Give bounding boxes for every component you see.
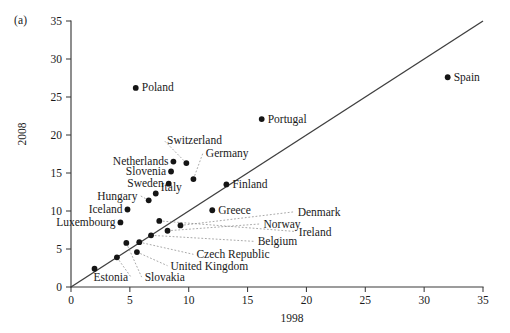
x-tick-label: 20 <box>301 294 313 306</box>
y-tick-label: 15 <box>51 167 63 179</box>
data-point-marker[interactable] <box>153 191 159 197</box>
data-point-label: Luxembourg <box>56 216 115 229</box>
data-point-marker[interactable] <box>445 74 451 80</box>
y-tick-label: 0 <box>56 281 62 293</box>
data-point-marker[interactable] <box>178 223 184 229</box>
data-point-group: Hungary <box>97 190 151 203</box>
data-point-marker[interactable] <box>259 116 265 122</box>
data-point-marker[interactable] <box>183 160 189 166</box>
data-point-group <box>92 266 98 272</box>
data-point-label: Italy <box>161 181 182 194</box>
data-point-label: Switzerland <box>167 134 222 146</box>
data-point-marker[interactable] <box>133 85 139 91</box>
data-point-label: Iceland <box>89 203 123 215</box>
data-point-label: Estonia <box>94 271 129 283</box>
data-point-marker[interactable] <box>134 249 140 255</box>
data-point-marker[interactable] <box>209 207 215 213</box>
data-point-label: Slovakia <box>145 271 185 283</box>
label-leader-line <box>193 153 202 179</box>
data-point-label: Norway <box>264 218 301 231</box>
data-point-label: Belgium <box>258 235 298 248</box>
data-point-label: Finland <box>232 178 267 190</box>
x-tick-label: 30 <box>418 294 430 306</box>
scatter-plot: 051015202530350510152025303519982008Pola… <box>0 0 510 333</box>
data-point-label: Hungary <box>97 190 137 203</box>
data-point-group: Portugal <box>259 113 307 126</box>
data-point-group: Luxembourg <box>56 216 123 229</box>
data-point-group: Ireland <box>156 218 331 238</box>
data-point-marker[interactable] <box>146 197 152 203</box>
data-point-label: Ireland <box>299 226 332 238</box>
data-point-group: Czech Republic <box>136 239 269 261</box>
x-axis-title: 1998 <box>281 312 304 324</box>
data-point-group: Greece <box>209 204 250 216</box>
data-point-marker[interactable] <box>191 176 197 182</box>
y-tick-label: 30 <box>51 53 63 65</box>
x-tick-label: 25 <box>360 294 372 306</box>
data-point-marker[interactable] <box>123 240 129 246</box>
data-point-label: Sweden <box>127 177 164 189</box>
data-point-marker[interactable] <box>156 218 162 224</box>
data-point-label: Spain <box>454 71 480 84</box>
data-point-label: Greece <box>218 204 251 216</box>
data-point-marker[interactable] <box>114 254 120 260</box>
data-point-marker[interactable] <box>125 207 131 213</box>
data-point-label: Portugal <box>268 113 307 126</box>
data-point-marker[interactable] <box>223 182 229 188</box>
data-point-label: Denmark <box>298 206 341 218</box>
x-tick-label: 15 <box>242 294 254 306</box>
data-point-group: Germany <box>191 147 249 182</box>
data-point-group: Poland <box>133 81 174 93</box>
label-leader-line <box>139 242 193 254</box>
data-point-marker[interactable] <box>148 232 154 238</box>
data-point-marker[interactable] <box>136 239 142 245</box>
x-tick-label: 0 <box>68 294 74 306</box>
data-point-marker[interactable] <box>165 228 171 234</box>
x-tick-label: 5 <box>127 294 133 306</box>
data-point-marker[interactable] <box>168 169 174 175</box>
data-point-label: Poland <box>142 81 174 93</box>
x-tick-label: 10 <box>183 294 195 306</box>
y-tick-label: 35 <box>51 15 63 27</box>
data-point-group: Belgium <box>148 232 297 248</box>
data-point-marker[interactable] <box>92 266 98 272</box>
x-tick-label: 35 <box>477 294 489 306</box>
label-leader-line <box>126 243 141 277</box>
data-point-label: Slovenia <box>126 165 166 177</box>
y-tick-label: 5 <box>56 243 62 255</box>
label-leader-line <box>151 235 255 241</box>
y-tick-label: 25 <box>51 91 63 103</box>
data-point-label: Germany <box>206 147 249 160</box>
data-point-group: Iceland <box>89 203 131 215</box>
figure-container: (a) 051015202530350510152025303519982008… <box>0 0 510 333</box>
y-tick-label: 20 <box>51 129 63 141</box>
data-point-group: Spain <box>445 71 480 84</box>
data-point-marker[interactable] <box>171 159 177 165</box>
data-point-marker[interactable] <box>118 220 124 226</box>
y-axis-title: 2008 <box>16 122 28 145</box>
label-leader-line <box>137 252 168 266</box>
